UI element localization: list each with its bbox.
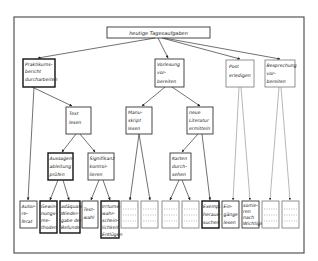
root-node: heutige Tagesaufgaben xyxy=(107,27,210,38)
node-line: Karten xyxy=(172,156,187,161)
node-line: wahl xyxy=(84,215,95,220)
node-line: Entlügen xyxy=(102,232,123,237)
node-line: lesen xyxy=(224,220,236,225)
leaf-blank-4 xyxy=(182,201,199,228)
node-line: gänge xyxy=(224,212,239,217)
node-line: bereiten xyxy=(267,79,286,84)
leaf-gewinnung: Gewin- nungs- me- thoden xyxy=(40,201,57,233)
node-aussagen: Aussagen- ableitung prüfen xyxy=(48,153,74,180)
edges-level3 xyxy=(50,180,190,200)
node-line: prüfen xyxy=(49,172,65,177)
node-line: Signifikanz xyxy=(90,156,116,161)
node-manuskript: Manu- skript lesen xyxy=(126,107,152,134)
leaf-wiedergabe: adäquate Wieder- gabe der Befunde xyxy=(60,201,83,233)
edges-root xyxy=(38,38,280,59)
node-line: me- xyxy=(41,218,50,223)
node-line: vor- xyxy=(267,71,276,76)
leaf-blank-2 xyxy=(141,201,158,228)
node-line: bericht xyxy=(25,69,41,74)
node-line: Befunde xyxy=(61,225,80,230)
task-tree-diagram: heutige Tagesaufgaben Praktikums- berich… xyxy=(0,0,318,261)
node-line: Manu- xyxy=(128,110,143,115)
leaf-sortieren: sortie- ren nach Wichtigk. xyxy=(242,201,264,228)
node-line: Aussagen- xyxy=(49,156,74,161)
node-line: skript xyxy=(128,118,141,123)
node-line: vor- xyxy=(157,70,166,75)
node-line: nach xyxy=(243,215,254,220)
node-line: Literatur xyxy=(189,118,210,123)
node-line: ableitung xyxy=(50,164,72,169)
node-line: adäquate xyxy=(61,204,83,209)
node-post: Post erledigen xyxy=(226,60,254,87)
node-literatur: neue Literatur ermitteln xyxy=(187,107,213,134)
node-line: heraus- xyxy=(203,212,221,217)
node-line: durch- xyxy=(172,164,187,169)
node-vorlesung: Vorlesung vor- bereiten xyxy=(155,59,184,87)
node-line: Irrtums- xyxy=(102,204,121,209)
node-text: Text lesen xyxy=(66,107,91,134)
node-line: Wichtigk. xyxy=(243,221,264,226)
leaf-blank-5 xyxy=(262,201,279,228)
node-karten: Karten durch- sehen xyxy=(170,153,191,180)
node-line: lesen xyxy=(69,120,81,125)
leaf-irrtum: Irrtums- wahr- schein- lichkeit Entlügen xyxy=(101,201,123,238)
node-line: Ein- xyxy=(224,204,233,209)
node-line: neue xyxy=(189,110,201,115)
node-line: Wieder- xyxy=(61,211,79,216)
node-line: wahr- xyxy=(102,211,115,216)
node-line: kontrol- xyxy=(90,164,108,169)
node-line: lichkeit xyxy=(102,225,119,230)
node-line: schein- xyxy=(102,218,119,223)
node-line: sortie- xyxy=(243,203,258,208)
node-signifikanz: Signifikanz kontrol- lieren xyxy=(88,153,115,180)
node-line: ferat xyxy=(22,219,33,224)
node-line: suchen xyxy=(203,220,220,225)
leaf-exemplare: Exempl. heraus- suchen xyxy=(202,201,222,228)
node-line: ermitteln xyxy=(189,126,210,131)
node-line: thoden xyxy=(41,225,57,230)
edges-level1 xyxy=(28,87,290,200)
leaf-eingaenge: Ein- gänge lesen xyxy=(222,201,239,228)
node-line: Gewin- xyxy=(41,204,57,209)
node-line: durcharbeiten xyxy=(25,77,58,82)
node-praktikum: Praktikums- bericht durcharbeiten xyxy=(23,59,58,87)
root-label: heutige Tagesaufgaben xyxy=(129,30,188,37)
node-line: Vorlesung xyxy=(157,62,180,67)
leaf-blank-6 xyxy=(282,201,299,228)
node-besprechung: Besprechung vor- bereiten xyxy=(265,60,297,87)
node-line: Autor- xyxy=(21,204,36,209)
node-line: lesen xyxy=(128,126,140,131)
node-line: Praktikums- xyxy=(25,62,53,67)
node-line: Besprechung xyxy=(267,63,297,68)
leaf-testwahl: Test- wahl xyxy=(82,201,98,228)
node-line: erledigen xyxy=(229,73,251,78)
leaf-blank-3 xyxy=(162,201,179,228)
node-line: nungs- xyxy=(41,211,57,216)
node-line: Test- xyxy=(84,207,95,212)
leaf-blank-1 xyxy=(121,201,138,228)
node-line: gabe der xyxy=(61,218,83,223)
node-line: Text xyxy=(69,111,79,116)
node-line: Exempl. xyxy=(203,204,222,209)
node-line: bereiten xyxy=(157,79,176,84)
node-line: ren xyxy=(243,209,251,214)
node-line: sehen xyxy=(172,172,186,177)
leaf-autorreferat: Autor- re- ferat xyxy=(20,201,37,228)
node-line: re- xyxy=(22,211,29,216)
node-line: lieren xyxy=(90,172,103,177)
node-line: Post xyxy=(229,64,239,69)
